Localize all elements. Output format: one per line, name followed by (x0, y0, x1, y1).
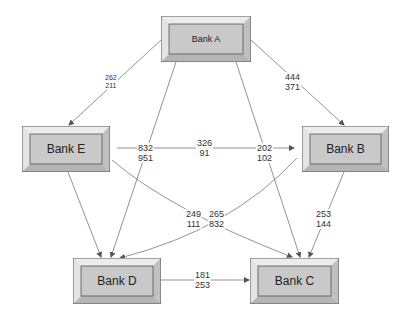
edge-value-top: 202 (257, 143, 272, 153)
node-label: Bank E (22, 142, 110, 156)
node-bank-e[interactable]: Bank E (22, 126, 110, 172)
edge-value-bottom: 102 (257, 153, 272, 163)
edge-value-bottom: 832 (209, 219, 224, 229)
edge-value-top: 253 (316, 209, 331, 219)
node-bank-a[interactable]: Bank A (161, 16, 251, 62)
edge-label-a-to-c: 202 102 (256, 143, 273, 163)
edge-value-top: 265 (209, 209, 224, 219)
node-label: Bank A (161, 34, 251, 44)
edge-b-to-d (120, 158, 297, 258)
edge-value-bottom: 144 (316, 219, 331, 229)
edge-value-bottom: 371 (285, 82, 300, 92)
edge-value-top: 249 (186, 209, 201, 219)
node-label: Bank D (73, 274, 161, 288)
edge-value-bottom: 253 (195, 280, 210, 290)
edge-value-top: 832 (138, 143, 153, 153)
edge-label-d-to-c: 181 253 (194, 270, 211, 290)
edge-value-top: 326 (197, 138, 212, 148)
edge-e-to-d (68, 172, 101, 257)
edge-value-top: 444 (285, 72, 300, 82)
node-label: Bank C (250, 274, 339, 288)
edge-value-top: 262 (105, 74, 117, 82)
edge-value-bottom: 91 (197, 148, 212, 158)
edge-label-a-to-e: 262 211 (104, 74, 118, 90)
edge-value-bottom: 211 (105, 82, 117, 90)
edge-value-bottom: 111 (186, 219, 201, 229)
edge-label-e-to-b: 326 91 (196, 138, 213, 158)
edge-label-e-to-c: 249 111 (185, 209, 202, 229)
node-bank-b[interactable]: Bank B (302, 126, 389, 172)
node-label: Bank B (302, 142, 389, 156)
edge-value-top: 181 (195, 270, 210, 280)
edge-label-a-to-d: 832 951 (137, 143, 154, 163)
node-bank-d[interactable]: Bank D (73, 258, 161, 304)
edge-value-bottom: 951 (138, 153, 153, 163)
node-bank-c[interactable]: Bank C (250, 258, 339, 304)
edge-label-b-to-d: 265 832 (208, 209, 225, 229)
edge-label-a-to-b: 444 371 (284, 72, 301, 92)
edge-label-b-to-c: 253 144 (315, 209, 332, 229)
